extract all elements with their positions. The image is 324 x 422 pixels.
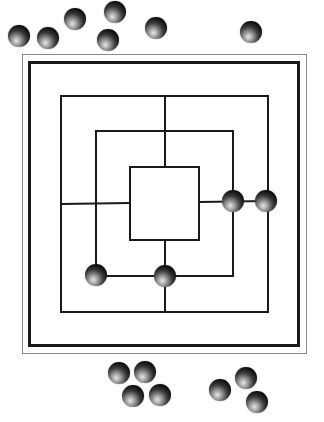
left-connector [61,203,130,204]
reserve-piece-bottom[interactable] [246,391,268,413]
reserve-piece-bottom[interactable] [108,362,130,384]
reserve-piece-bottom[interactable] [209,379,231,401]
board-piece[interactable] [222,190,244,212]
board-piece[interactable] [255,190,277,212]
reserve-piece-bottom[interactable] [122,385,144,407]
board-piece[interactable] [154,265,176,287]
reserve-piece-bottom[interactable] [235,367,257,389]
reserve-piece-top[interactable] [104,1,126,23]
board-lines [0,0,324,422]
reserve-piece-top[interactable] [64,8,86,30]
reserve-piece-top[interactable] [145,17,167,39]
reserve-piece-bottom[interactable] [134,361,156,383]
reserve-piece-top[interactable] [97,29,119,51]
board-piece[interactable] [85,264,107,286]
reserve-piece-top[interactable] [8,25,30,47]
reserve-piece-top[interactable] [37,27,59,49]
reserve-piece-top[interactable] [240,21,262,43]
reserve-piece-bottom[interactable] [149,384,171,406]
inner-square [130,167,199,240]
